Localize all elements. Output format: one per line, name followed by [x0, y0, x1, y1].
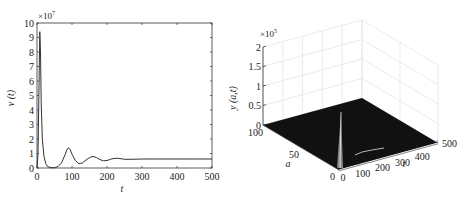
y-tick-label: 0 — [29, 163, 34, 174]
y-tick-label: 10 — [24, 18, 34, 29]
x-tick-label: 300 — [135, 171, 150, 182]
y-tick-label: 6 — [29, 76, 34, 87]
x-tick-label: 500 — [205, 171, 220, 182]
left-y-label: v (t) — [5, 89, 17, 106]
y-tick-label: 7 — [29, 61, 34, 72]
z-tick — [263, 46, 266, 47]
right-chart: 00.511.521005000100200300400500 ×105 y (… — [227, 20, 457, 183]
t-tick-label: 100 — [355, 168, 370, 179]
left-multiplier: ×107 — [38, 10, 55, 21]
z-tick — [263, 105, 266, 106]
right-t-label: t — [403, 158, 406, 169]
a-tick-label: 50 — [289, 149, 299, 160]
x-tick-label: 0 — [35, 171, 40, 182]
y-tick-label: 3 — [29, 119, 34, 130]
z-tick-label: 2 — [256, 42, 261, 53]
v-series-line — [37, 32, 212, 168]
t-tick-label: 200 — [375, 162, 390, 173]
right-z-label: y (a,t) — [227, 85, 239, 111]
y-tick-label: 9 — [29, 32, 34, 43]
x-tick-label: 400 — [170, 171, 185, 182]
z-tick — [263, 66, 266, 67]
t-tick-label: 0 — [341, 172, 346, 183]
y-tick-label: 1 — [29, 148, 34, 159]
t-tick-label: 500 — [442, 138, 457, 149]
a-tick-label: 100 — [248, 127, 263, 138]
z-tick-label: 1 — [256, 81, 261, 92]
left-y-axis: 012345678910 — [24, 18, 212, 174]
z-tick-label: 1.5 — [249, 61, 262, 72]
y-tick-label: 5 — [29, 90, 34, 101]
y-tick-label: 8 — [29, 47, 34, 58]
z-tick — [263, 85, 266, 86]
right-multiplier: ×105 — [260, 28, 277, 39]
left-plot-frame — [37, 23, 212, 168]
y-tick-label: 4 — [29, 105, 34, 116]
right-a-label: a — [286, 158, 291, 169]
t-tick-label: 400 — [415, 151, 430, 162]
figure: 012345678910 0100200300400500 ×107 v (t)… — [0, 0, 466, 201]
left-chart: 012345678910 0100200300400500 ×107 v (t)… — [5, 10, 220, 194]
left-x-axis: 0100200300400500 — [35, 23, 220, 182]
a-tick-label: 0 — [330, 171, 335, 182]
left-x-label: t — [121, 183, 124, 194]
x-tick-label: 100 — [65, 171, 80, 182]
z-tick-label: 0.5 — [249, 100, 262, 111]
y-tick-label: 2 — [29, 134, 34, 145]
x-tick-label: 200 — [100, 171, 115, 182]
